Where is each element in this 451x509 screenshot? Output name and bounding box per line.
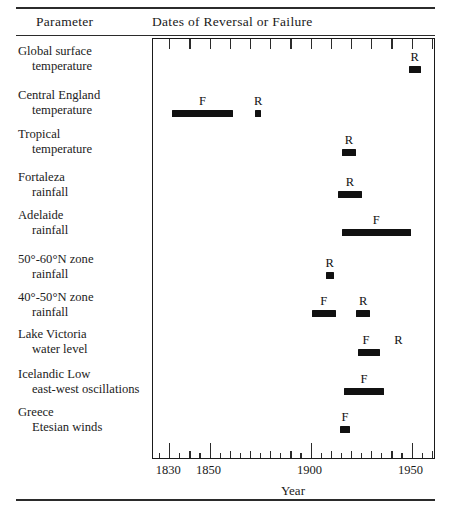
top-rule [16,7,435,9]
tick-top-1910 [331,39,332,49]
tick-top-1920 [351,39,352,49]
row-label-line2: water level [0,342,148,357]
tick-bottom-1930 [371,451,372,458]
event-bar-row8-1 [358,349,380,356]
tick-bottom-minor-1855 [220,453,221,458]
row-label-line2: east-west oscillations [0,382,148,397]
event-marker-label: F [373,214,380,226]
row-label-7: 40°-50°N zonerainfall [0,290,148,320]
row-label-line2: temperature [0,59,148,74]
event-marker-label: R [410,51,418,63]
event-bar-row7-1 [312,310,336,317]
column-header-parameter: Parameter [36,14,93,30]
row-label-line2: temperature [0,142,148,157]
tick-top-1900 [311,39,312,49]
row-label-line1: Icelandic Low [0,367,148,382]
tick-bottom-minor-1885 [280,453,281,458]
tick-bottom-1830 [169,443,170,458]
tick-bottom-minor-1935 [381,453,382,458]
axis-title-year: Year [281,483,305,499]
plot-area [152,38,435,459]
tick-top-1840 [189,39,190,49]
tick-top-1850 [210,39,211,49]
tick-bottom-minor-1945 [401,453,402,458]
event-bar-row9-1 [344,388,384,395]
tick-top-1860 [230,39,231,49]
event-marker-label-secondary: R [394,334,402,346]
tick-bottom-minor-1835 [179,453,180,458]
event-bar-row2-1 [172,110,233,117]
row-label-line1: Tropical [0,127,148,142]
tick-bottom-1900 [311,443,312,458]
axis-tick-label-1850: 1850 [196,463,221,478]
event-marker-label: R [254,95,262,107]
row-label-9: Icelandic Loweast-west oscillations [0,367,148,397]
row-label-line2: temperature [0,103,148,118]
tick-bottom-minor-1845 [199,453,200,458]
tick-top-1830 [169,39,170,49]
row-label-8: Lake Victoriawater level [0,327,148,357]
event-marker-label: R [326,257,334,269]
tick-top-1960 [432,39,433,49]
tick-top-1880 [270,39,271,49]
column-header-dates: Dates of Reversal or Failure [152,14,313,30]
row-label-line2: Etesian winds [0,420,148,435]
row-label-line1: 50°-60°N zone [0,252,148,267]
tick-bottom-1950 [412,443,413,458]
event-marker-label: F [361,373,368,385]
axis-tick-label-1900: 1900 [297,463,322,478]
axis-tick-label-1950: 1950 [398,463,423,478]
row-label-6: 50°-60°N zonerainfall [0,252,148,282]
event-marker-label: R [359,295,367,307]
tick-bottom-1920 [351,451,352,458]
row-label-2: Central Englandtemperature [0,88,148,118]
row-label-line1: 40°-50°N zone [0,290,148,305]
tick-top-1940 [391,39,392,49]
tick-bottom-1870 [250,451,251,458]
tick-top-1950 [412,39,413,49]
row-label-line2: rainfall [0,185,148,200]
header-rule [16,35,435,36]
tick-bottom-minor-1925 [361,453,362,458]
event-marker-label: F [199,95,206,107]
axis-tick-label-1830: 1830 [156,463,181,478]
event-bar-row5-1 [342,229,411,236]
row-label-line1: Fortaleza [0,170,148,185]
event-bar-row7-2 [356,310,370,317]
tick-top-1890 [290,39,291,49]
event-bar-row6-1 [326,272,334,279]
tick-bottom-minor-1825 [159,453,160,458]
row-label-line1: Lake Victoria [0,327,148,342]
row-label-line1: Central England [0,88,148,103]
row-label-line1: Adelaide [0,208,148,223]
tick-bottom-1850 [210,443,211,458]
tick-bottom-minor-1905 [321,453,322,458]
tick-bottom-1910 [331,451,332,458]
event-marker-label: F [363,334,370,346]
row-label-line1: Greece [0,405,148,420]
event-bar-row1-1 [409,66,421,73]
tick-bottom-1940 [391,451,392,458]
tick-bottom-1840 [189,451,190,458]
event-marker-label: F [341,411,348,423]
tick-bottom-1860 [230,451,231,458]
tick-bottom-1960 [432,451,433,458]
bottom-rule [16,499,435,501]
event-bar-row10-1 [340,426,350,433]
row-label-10: GreeceEtesian winds [0,405,148,435]
row-label-1: Global surfacetemperature [0,44,148,74]
figure-reversal-failure: Parameter Dates of Reversal or Failure G… [0,0,451,509]
tick-top-1870 [250,39,251,49]
event-bar-row4-1 [338,191,362,198]
tick-bottom-minor-1955 [422,453,423,458]
event-bar-row2-2 [255,110,261,117]
row-label-line2: rainfall [0,305,148,320]
tick-bottom-minor-1875 [260,453,261,458]
row-label-line1: Global surface [0,44,148,59]
tick-bottom-minor-1865 [240,453,241,458]
tick-bottom-minor-1915 [341,453,342,458]
tick-bottom-minor-1895 [300,453,301,458]
event-marker-label: R [346,176,354,188]
event-bar-row3-1 [342,149,356,156]
row-label-3: Tropicaltemperature [0,127,148,157]
